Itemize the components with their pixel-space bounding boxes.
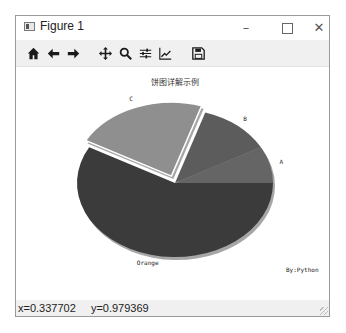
slice-label: B — [243, 115, 247, 122]
toolbar — [16, 40, 329, 67]
home-icon — [27, 47, 40, 60]
save-button[interactable] — [189, 44, 207, 62]
minimize-icon: – — [243, 20, 250, 35]
home-button[interactable] — [24, 44, 42, 62]
floppy-disk-icon — [192, 47, 205, 60]
line-chart-icon — [159, 47, 172, 60]
slice-label: C — [129, 95, 133, 102]
app-icon — [24, 22, 35, 31]
edit-axis-button[interactable] — [156, 44, 174, 62]
slice-label: Orange — [137, 259, 159, 267]
figure-window: Figure 1 – ✕ — [15, 15, 330, 317]
forward-button[interactable] — [64, 44, 82, 62]
move-icon — [99, 47, 112, 60]
sliders-icon — [139, 47, 152, 60]
slice-label: A — [279, 158, 283, 165]
arrow-left-icon — [47, 47, 60, 60]
maximize-button[interactable] — [272, 16, 302, 40]
figure-canvas[interactable]: 饼图详解示例ABCOrangeBy:Python — [16, 67, 329, 302]
chart-annotation: By:Python — [286, 266, 319, 274]
chart-title: 饼图详解示例 — [151, 77, 199, 87]
back-button[interactable] — [44, 44, 62, 62]
title-bar[interactable]: Figure 1 – ✕ — [16, 16, 329, 40]
close-icon: ✕ — [314, 20, 325, 35]
arrow-right-icon — [67, 47, 80, 60]
pan-button[interactable] — [96, 44, 114, 62]
resize-grip[interactable] — [320, 307, 328, 315]
window-title: Figure 1 — [40, 19, 84, 33]
status-bar: x=0.337702 y=0.979369 — [16, 300, 329, 316]
magnifier-icon — [119, 47, 132, 60]
pie-chart: 饼图详解示例ABCOrangeBy:Python — [16, 67, 329, 302]
cursor-y-coordinate: y=0.979369 — [91, 302, 149, 314]
minimize-button[interactable]: – — [231, 16, 261, 40]
close-button[interactable]: ✕ — [304, 16, 334, 40]
zoom-button[interactable] — [116, 44, 134, 62]
subplots-button[interactable] — [136, 44, 154, 62]
cursor-x-coordinate: x=0.337702 — [18, 302, 76, 314]
maximize-icon — [282, 23, 293, 34]
